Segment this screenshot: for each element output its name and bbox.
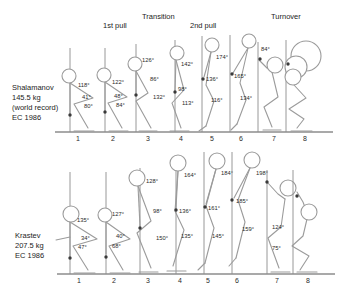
body-segment bbox=[292, 219, 309, 270]
position-number: 3 bbox=[146, 135, 150, 142]
position-number: 5 bbox=[206, 277, 210, 284]
technique-diagram: 1st pull Transition 2nd pull Turnover Sh… bbox=[0, 0, 345, 299]
angle-label: 47° bbox=[78, 244, 87, 250]
position-number: 1 bbox=[77, 277, 81, 284]
body-segment bbox=[136, 71, 151, 128]
body-segment bbox=[234, 168, 250, 198]
head-icon bbox=[170, 155, 186, 171]
figure-krastev-pos1: 135°34°47° bbox=[56, 172, 97, 274]
figure-krastev-pos2: 127°40°68° bbox=[98, 172, 130, 274]
figure-shalamanov-pos4: 142°98°113° bbox=[170, 40, 194, 132]
barbell-marker-icon bbox=[265, 180, 268, 183]
position-number: 6 bbox=[239, 135, 243, 142]
angle-label: 113° bbox=[182, 100, 194, 106]
head-icon bbox=[205, 38, 219, 52]
angle-label: 40° bbox=[116, 233, 125, 239]
head-icon bbox=[170, 46, 184, 60]
position-number: 7 bbox=[275, 277, 279, 284]
position-number: 5 bbox=[210, 135, 214, 142]
head-icon bbox=[97, 68, 111, 82]
barbell-marker-icon bbox=[201, 77, 204, 80]
angle-label: 80° bbox=[84, 103, 93, 109]
position-number: 8 bbox=[303, 135, 307, 142]
barbell-marker-icon bbox=[103, 110, 106, 113]
angle-label: 135° bbox=[77, 217, 89, 223]
body-segment bbox=[264, 72, 278, 127]
body-segment bbox=[172, 60, 184, 128]
head-icon bbox=[267, 57, 283, 73]
angle-label: 198° bbox=[256, 170, 268, 176]
angle-label: 185° bbox=[236, 198, 248, 204]
angle-label: 34° bbox=[81, 235, 90, 241]
figure-krastev-pos3: 128°98°150° bbox=[129, 168, 168, 274]
angle-label: 134° bbox=[240, 95, 252, 101]
head-icon bbox=[129, 170, 145, 186]
angle-label: 126° bbox=[142, 57, 154, 63]
body-segment bbox=[289, 85, 306, 128]
position-number: 4 bbox=[178, 277, 182, 284]
head-icon bbox=[209, 153, 225, 169]
angle-label: 164° bbox=[184, 172, 196, 178]
head-icon bbox=[62, 69, 76, 83]
angle-label: 84° bbox=[261, 46, 270, 52]
position-number: 2 bbox=[112, 277, 116, 284]
figure-shalamanov-pos6: 165°134° bbox=[230, 34, 256, 132]
barbell-marker-icon bbox=[203, 205, 206, 208]
row-shalamanov: 12345678118°41°80°122°48°84°126°86°132°1… bbox=[55, 34, 333, 142]
figure-krastev-pos5: 184°161°145° bbox=[198, 152, 233, 274]
body-segment bbox=[56, 237, 70, 240]
angle-label: 132° bbox=[153, 94, 165, 100]
barbell-marker-icon bbox=[134, 93, 137, 96]
stick-figure-canvas: 12345678118°41°80°122°48°84°126°86°132°1… bbox=[0, 0, 345, 299]
angle-label: 135° bbox=[181, 233, 193, 239]
angle-label: 150° bbox=[156, 235, 168, 241]
figure-shalamanov-pos1: 118°41°80° bbox=[62, 48, 94, 132]
body-segment bbox=[229, 258, 236, 266]
angle-label: 174° bbox=[216, 54, 228, 60]
angle-label: 142° bbox=[181, 61, 193, 67]
barbell-marker-icon bbox=[230, 198, 233, 201]
body-segment bbox=[231, 124, 237, 130]
position-number: 3 bbox=[146, 277, 150, 284]
head-icon bbox=[301, 204, 317, 220]
angle-label: 98° bbox=[153, 208, 162, 214]
head-icon bbox=[242, 34, 256, 48]
position-number: 1 bbox=[76, 135, 80, 142]
figure-shalamanov-pos2: 122°48°84° bbox=[97, 48, 128, 132]
figure-shalamanov-pos5: 174°136°116° bbox=[199, 36, 228, 132]
position-number: 4 bbox=[179, 135, 183, 142]
body-segment bbox=[233, 48, 248, 73]
angle-label: 84° bbox=[116, 102, 125, 108]
angle-label: 122° bbox=[112, 79, 124, 85]
angle-label: 145° bbox=[212, 233, 224, 239]
body-segment bbox=[199, 126, 206, 131]
figure-shalamanov-pos8 bbox=[285, 40, 321, 132]
barbell-marker-icon bbox=[286, 62, 289, 65]
body-segment bbox=[206, 52, 214, 126]
position-number: 7 bbox=[272, 135, 276, 142]
angle-label: 118° bbox=[78, 82, 90, 88]
angle-label: 159° bbox=[242, 226, 254, 232]
body-segment bbox=[206, 169, 216, 204]
angle-label: 68° bbox=[112, 243, 121, 249]
barbell-marker-icon bbox=[68, 256, 71, 259]
barbell-marker-icon bbox=[68, 113, 71, 116]
row-krastev: 12345678135°34°47°127°40°68°128°98°150°1… bbox=[56, 152, 335, 284]
angle-label: 128° bbox=[146, 178, 158, 184]
angle-label: 165° bbox=[234, 73, 246, 79]
angle-label: 136° bbox=[206, 76, 218, 82]
figure-shalamanov-pos3: 126°86°132° bbox=[128, 44, 165, 132]
body-segment bbox=[237, 48, 248, 124]
head-icon bbox=[285, 69, 301, 85]
head-icon bbox=[244, 152, 260, 168]
head-icon bbox=[280, 180, 296, 196]
figure-krastev-pos6: 198°185°159° bbox=[229, 152, 268, 274]
figure-krastev-pos7: 124°75° bbox=[265, 170, 296, 274]
head-icon bbox=[128, 57, 142, 71]
body-segment bbox=[268, 199, 285, 268]
head-icon bbox=[98, 208, 112, 222]
angle-label: 161° bbox=[208, 205, 220, 211]
barbell-marker-icon bbox=[104, 255, 107, 258]
angle-label: 116° bbox=[211, 97, 223, 103]
barbell-marker-icon bbox=[295, 194, 298, 197]
